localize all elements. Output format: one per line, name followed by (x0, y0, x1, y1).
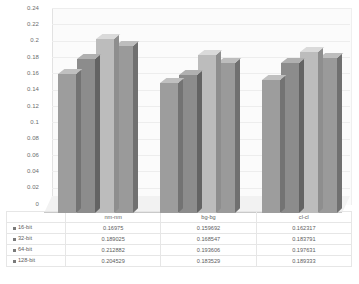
legend-swatch-icon (13, 260, 16, 263)
y-axis-tick-label: 0.04 (27, 168, 39, 175)
legend-item-64-bit: 64-bit (7, 245, 66, 256)
bar-16-bit-nm-nm (58, 74, 76, 213)
table-corner-cell (7, 212, 66, 223)
legend-label: 16-bit (18, 225, 32, 231)
bar-group (262, 17, 358, 213)
legend-swatch-icon (13, 249, 16, 252)
bar-side (76, 70, 81, 213)
legend-item-128-bit: 128-bit (7, 256, 66, 267)
bar-side (318, 47, 323, 213)
y-axis-tick-label: 0.12 (27, 103, 39, 110)
chart-container: 0.240.220.20.180.160.140.120.10.080.060.… (0, 0, 359, 284)
data-cell: 0.162317 (256, 223, 351, 234)
plot-area (44, 8, 350, 213)
bar-face (262, 80, 280, 213)
category-header-bg-bg: bg-bg (161, 212, 256, 223)
data-cell: 0.197631 (256, 245, 351, 256)
data-cell: 0.183529 (161, 256, 256, 267)
bar-group (58, 17, 154, 213)
table-header-row: nm-nmbg-bgcl-cl (7, 212, 352, 223)
y-axis: 0.240.220.20.180.160.140.120.10.080.060.… (0, 8, 42, 213)
data-cell: 0.204529 (66, 256, 161, 267)
bar-side (178, 78, 183, 213)
legend-label: 128-bit (18, 258, 35, 264)
legend-item-32-bit: 32-bit (7, 234, 66, 245)
y-axis-tick-label: 0.02 (27, 184, 39, 191)
bar-side (114, 34, 119, 213)
legend-swatch-icon (13, 227, 16, 230)
data-cell: 0.168547 (161, 234, 256, 245)
data-cell: 0.183791 (256, 234, 351, 245)
y-axis-tick-label: 0.08 (27, 135, 39, 142)
y-axis-tick-label: 0.16 (27, 70, 39, 77)
y-axis-tick-label: 0.18 (27, 54, 39, 61)
legend-label: 32-bit (18, 236, 32, 242)
bar-face (58, 74, 76, 213)
y-axis-tick-label: 0.1 (30, 119, 39, 126)
table-row: 32-bit0.1890250.1685470.183791 (7, 234, 352, 245)
data-cell: 0.193606 (161, 245, 256, 256)
bar-group (160, 17, 256, 213)
bar-side (235, 58, 240, 213)
data-cell: 0.16975 (66, 223, 161, 234)
bar-side (337, 54, 342, 213)
y-axis-tick-label: 0.24 (27, 5, 39, 12)
bar-16-bit-cl-cl (262, 80, 280, 213)
bar-16-bit-bg-bg (160, 83, 178, 213)
bar-side (133, 41, 138, 213)
table-row: 128-bit0.2045290.1835290.189333 (7, 256, 352, 267)
data-cell: 0.189333 (256, 256, 351, 267)
table-row: 16-bit0.169750.1596920.162317 (7, 223, 352, 234)
y-axis-tick-label: 0.14 (27, 86, 39, 93)
bar-face (160, 83, 178, 213)
y-axis-tick-label: 0 (36, 201, 39, 208)
legend-swatch-icon (13, 238, 16, 241)
category-header-cl-cl: cl-cl (256, 212, 351, 223)
data-cell: 0.189025 (66, 234, 161, 245)
data-cell: 0.212882 (66, 245, 161, 256)
data-table: nm-nmbg-bgcl-cl16-bit0.169750.1596920.16… (6, 211, 352, 267)
bar-side (95, 54, 100, 213)
legend-item-16-bit: 16-bit (7, 223, 66, 234)
legend-label: 64-bit (18, 247, 32, 253)
bar-side (280, 76, 285, 213)
bar-side (216, 50, 221, 213)
y-axis-tick-label: 0.06 (27, 152, 39, 159)
bar-side (197, 71, 202, 213)
data-cell: 0.159692 (161, 223, 256, 234)
y-axis-tick-label: 0.22 (27, 21, 39, 28)
gridline (52, 8, 350, 9)
bar-side (299, 58, 304, 213)
y-axis-tick-label: 0.2 (30, 37, 39, 44)
table-row: 64-bit0.2128820.1936060.197631 (7, 245, 352, 256)
